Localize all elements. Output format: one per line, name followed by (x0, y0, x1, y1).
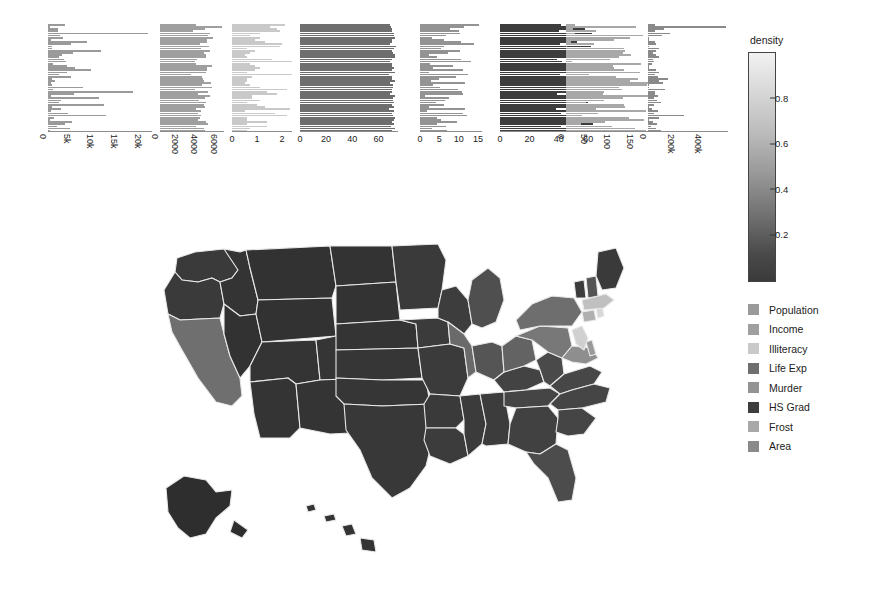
axis-tick: 6000 (209, 134, 219, 154)
map-state-vt[interactable] (574, 280, 586, 298)
plot-area (300, 24, 398, 132)
map-state-az[interactable] (250, 378, 300, 438)
legend-item-hs-grad[interactable]: HS Grad (748, 398, 876, 418)
map-state-tx[interactable] (344, 404, 434, 498)
axis-tick-labels: 051015 (420, 132, 482, 178)
legend-swatch-icon (748, 402, 759, 413)
colorbar-title: density (750, 34, 783, 46)
bar (48, 104, 104, 106)
legend-item-income[interactable]: Income (748, 320, 876, 340)
bar (648, 117, 659, 119)
map-state-wy[interactable] (256, 298, 336, 342)
legend-swatch-icon (748, 304, 759, 315)
bar-panel-life-exp: 0204060 (300, 24, 398, 178)
axis-tick: 0 (38, 134, 48, 139)
colorbar-tick: 0.2 (775, 229, 788, 240)
map-state-ar[interactable] (424, 394, 464, 428)
map-state-sd[interactable] (336, 282, 400, 324)
map-state-fl[interactable] (526, 444, 576, 502)
bar (48, 93, 74, 95)
axis-tick: 200k (666, 134, 676, 154)
legend-item-label: Area (769, 440, 791, 452)
map-state-ut[interactable] (250, 340, 320, 384)
bar (648, 82, 663, 84)
colorbar-tick: 0.6 (775, 138, 788, 149)
legend-item-population[interactable]: Population (748, 300, 876, 320)
axis-tick: 10k (85, 134, 95, 149)
axis-tick: 0 (297, 134, 302, 144)
map-state-oh[interactable] (502, 336, 536, 372)
legend-item-illiteracy[interactable]: Illiteracy (748, 339, 876, 359)
axis-tick: 400k (693, 134, 703, 154)
legend-item-label: Income (769, 323, 803, 335)
axis-tick: 15 (473, 134, 483, 144)
axis-tick: 60 (373, 134, 383, 144)
variable-legend: PopulationIncomeIlliteracyLife ExpMurder… (748, 300, 876, 456)
map-svg (120, 238, 680, 578)
axis-tick-labels: 0200k400k (648, 132, 728, 178)
axis-tick: 0 (638, 134, 648, 139)
axis-tick: 15k (109, 134, 119, 149)
map-state-ak[interactable] (166, 476, 248, 538)
axis-tick: 0 (497, 134, 502, 144)
bar (48, 115, 106, 117)
bar (566, 59, 610, 61)
map-state-hi[interactable] (306, 504, 376, 552)
legend-swatch-icon (748, 363, 759, 374)
bar (566, 43, 594, 45)
map-state-ks[interactable] (336, 348, 422, 380)
axis-tick: 20 (524, 134, 534, 144)
legend-swatch-icon (748, 343, 759, 354)
plot-area (160, 24, 224, 132)
map-state-ne[interactable] (336, 320, 418, 350)
axis-tick: 4000 (189, 134, 199, 154)
legend-item-label: Population (769, 304, 819, 316)
map-state-ny[interactable] (516, 296, 582, 330)
bar (648, 35, 662, 37)
plot-area (566, 24, 654, 132)
map-state-me[interactable] (596, 248, 624, 290)
map-state-ct[interactable] (582, 310, 596, 322)
legend-item-label: Murder (769, 382, 802, 394)
bar (48, 33, 148, 35)
bar-panel-strip: 05k10k15k20k0200040006000012020406005101… (0, 0, 740, 190)
bar (420, 108, 465, 110)
bar (648, 104, 654, 106)
axis-tick: 0 (556, 134, 566, 139)
axis-tick: 10 (454, 134, 464, 144)
map-state-in[interactable] (472, 342, 504, 380)
colorbar-gradient (748, 52, 776, 282)
map-state-nh[interactable] (586, 276, 598, 298)
axis-tick: 40 (347, 134, 357, 144)
map-state-sc[interactable] (556, 408, 596, 436)
axis-tick: 0 (417, 134, 422, 144)
density-colorbar: density 0.80.60.40.2 (744, 34, 864, 284)
map-state-ok[interactable] (336, 378, 430, 406)
dashboard-root: 05k10k15k20k0200040006000012020406005101… (0, 0, 877, 590)
legend-item-murder[interactable]: Murder (748, 378, 876, 398)
legend-item-life-exp[interactable]: Life Exp (748, 359, 876, 379)
map-state-mi[interactable] (468, 268, 504, 328)
legend-item-frost[interactable]: Frost (748, 417, 876, 437)
axis-tick-labels: 05k10k15k20k (48, 132, 152, 178)
map-state-la[interactable] (424, 428, 468, 464)
axis-tick: 150 (625, 134, 635, 149)
bar-panel-population: 05k10k15k20k (48, 24, 152, 178)
map-state-nd[interactable] (330, 246, 396, 286)
legend-item-area[interactable]: Area (748, 437, 876, 457)
colorbar-tick: 0.8 (775, 92, 788, 103)
axis-tick-labels: 0204060 (300, 132, 398, 178)
bar (48, 24, 65, 26)
legend-swatch-icon (748, 441, 759, 452)
bar (420, 93, 463, 95)
legend-swatch-icon (748, 421, 759, 432)
map-state-mn[interactable] (392, 244, 446, 310)
legend-item-label: Illiteracy (769, 343, 808, 355)
axis-tick: 20k (133, 134, 143, 149)
map-state-mt[interactable] (246, 246, 336, 300)
bar-panel-income: 0200040006000 (160, 24, 224, 178)
axis-tick: 5 (437, 134, 442, 144)
axis-tick-labels: 012 (232, 132, 292, 178)
axis-tick-labels: 0200040006000 (160, 132, 224, 178)
bar-panel-frost: 050100150 (566, 24, 654, 178)
